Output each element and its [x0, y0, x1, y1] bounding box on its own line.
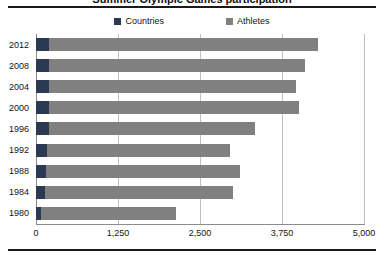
- y-axis-tick-label: 1984: [0, 187, 29, 197]
- bar-segment-athletes[interactable]: [49, 122, 255, 135]
- bar-segment-countries[interactable]: [36, 165, 46, 178]
- x-axis-tick-label: 2,500: [175, 228, 225, 239]
- chart-legend: Countries Athletes: [0, 14, 384, 28]
- bar-segment-athletes[interactable]: [41, 207, 175, 220]
- bar-stack: [36, 59, 305, 72]
- bar-row[interactable]: [36, 76, 364, 97]
- chart-title: Summer Olympic Games participation: [0, 0, 384, 5]
- bar-segment-athletes[interactable]: [46, 165, 240, 178]
- y-axis-tick-label: 2012: [0, 40, 29, 50]
- bar-stack: [36, 186, 233, 199]
- x-axis-tick-label: 3,750: [257, 228, 307, 239]
- bar-row[interactable]: [36, 97, 364, 118]
- x-axis-tick-label: 0: [11, 228, 61, 239]
- bar-row[interactable]: [36, 34, 364, 55]
- gridline-5000: [364, 34, 365, 224]
- y-axis-tick-label: 2008: [0, 61, 29, 71]
- bar-stack: [36, 144, 230, 157]
- bar-segment-countries[interactable]: [36, 122, 49, 135]
- legend-label-athletes: Athletes: [237, 16, 270, 26]
- bar-segment-countries[interactable]: [36, 186, 45, 199]
- bar-row[interactable]: [36, 182, 364, 203]
- legend-item-athletes[interactable]: Athletes: [226, 16, 270, 26]
- y-axis-tick-label: 1996: [0, 124, 29, 134]
- legend-item-countries[interactable]: Countries: [114, 16, 164, 26]
- bar-stack: [36, 80, 296, 93]
- top-rule: [8, 6, 376, 8]
- bottom-rule: [8, 249, 376, 251]
- legend-label-countries: Countries: [125, 16, 164, 26]
- bar-segment-countries[interactable]: [36, 38, 49, 51]
- bar-rows: [36, 34, 364, 224]
- x-axis-labels: 01,2502,5003,7505,000: [0, 228, 384, 240]
- bar-chart: Summer Olympic Games participation Count…: [0, 0, 384, 260]
- bar-stack: [36, 38, 318, 51]
- legend-swatch-countries: [114, 18, 121, 25]
- y-axis-tick-label: 1980: [0, 208, 29, 218]
- y-axis-labels: 201220082004200019961992198819841980: [0, 34, 33, 224]
- bar-segment-athletes[interactable]: [47, 144, 230, 157]
- bar-row[interactable]: [36, 203, 364, 224]
- legend-swatch-athletes: [226, 18, 233, 25]
- y-axis-tick-label: 2004: [0, 82, 29, 92]
- y-axis-tick-label: 1988: [0, 166, 29, 176]
- bar-row[interactable]: [36, 55, 364, 76]
- bar-stack: [36, 207, 176, 220]
- bar-segment-athletes[interactable]: [49, 80, 296, 93]
- plot-area: [36, 34, 364, 224]
- bar-segment-athletes[interactable]: [49, 38, 318, 51]
- bar-segment-athletes[interactable]: [49, 59, 305, 72]
- bar-segment-athletes[interactable]: [45, 186, 233, 199]
- bar-stack: [36, 101, 299, 114]
- x-axis-line: [36, 224, 365, 225]
- bar-row[interactable]: [36, 140, 364, 161]
- bar-segment-countries[interactable]: [36, 101, 49, 114]
- bar-row[interactable]: [36, 118, 364, 139]
- bar-stack: [36, 122, 255, 135]
- bar-segment-countries[interactable]: [36, 144, 47, 157]
- bar-row[interactable]: [36, 161, 364, 182]
- x-axis-tick-label: 5,000: [339, 228, 384, 239]
- bar-stack: [36, 165, 240, 178]
- bar-segment-countries[interactable]: [36, 59, 49, 72]
- y-axis-tick-label: 2000: [0, 103, 29, 113]
- bar-segment-athletes[interactable]: [49, 101, 299, 114]
- x-axis-tick-label: 1,250: [93, 228, 143, 239]
- y-axis-tick-label: 1992: [0, 145, 29, 155]
- bar-segment-countries[interactable]: [36, 80, 49, 93]
